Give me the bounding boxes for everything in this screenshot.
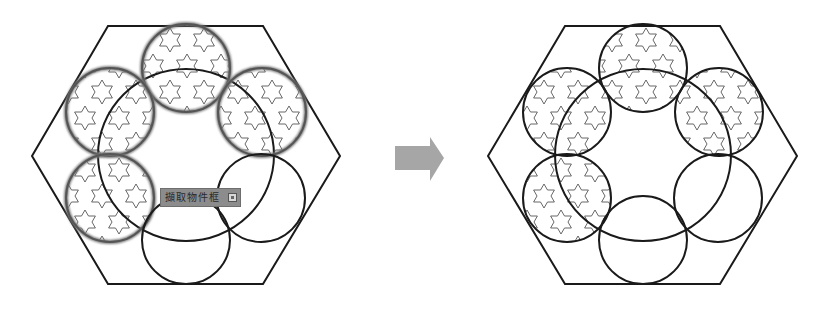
circle-shape-4[interactable]	[674, 154, 762, 242]
left-panel	[32, 24, 340, 284]
diagram-canvas	[0, 0, 825, 312]
right-arrow-icon	[395, 137, 444, 181]
tooltip-label: 擷取物件框	[165, 189, 220, 206]
capture-object-tooltip[interactable]: 擷取物件框	[160, 188, 241, 207]
right-panel	[488, 24, 797, 284]
expand-button-icon[interactable]	[228, 193, 237, 202]
